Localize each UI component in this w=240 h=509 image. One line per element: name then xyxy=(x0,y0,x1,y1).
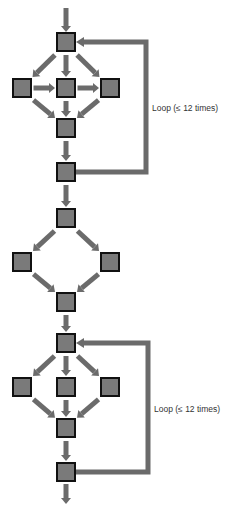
exit-arrow xyxy=(61,484,71,504)
edge-b4-c1 xyxy=(61,315,71,332)
edge-a3-a5 xyxy=(61,101,71,117)
edge-a4-a5 xyxy=(77,100,99,118)
process-node-c1 xyxy=(57,334,75,352)
process-node-c4 xyxy=(101,378,119,396)
loop-1-return-path xyxy=(75,37,146,172)
edge-c3-c5 xyxy=(61,400,71,417)
arrowhead-icon xyxy=(61,455,71,461)
edge-b1-b3 xyxy=(78,231,100,251)
process-node-b4 xyxy=(57,293,75,311)
arrowhead-icon xyxy=(61,201,71,207)
edge-c1-c2 xyxy=(33,356,55,376)
edge-a5-a6 xyxy=(61,141,71,161)
edge-c1-c4 xyxy=(78,356,100,376)
process-node-a1 xyxy=(57,33,75,51)
edge-a2-a3 xyxy=(34,83,56,93)
edge-c5-c6 xyxy=(61,441,71,461)
edge-b1-b2 xyxy=(33,231,55,251)
process-node-a3 xyxy=(57,79,75,97)
process-node-b2 xyxy=(13,253,31,271)
process-node-b1 xyxy=(57,209,75,227)
process-node-a6 xyxy=(57,163,75,181)
arrowhead-icon xyxy=(61,155,71,161)
entry-arrow xyxy=(61,8,71,32)
process-node-a2 xyxy=(13,79,31,97)
loop-2-return-path xyxy=(75,338,148,472)
arrowhead-icon xyxy=(61,26,71,32)
edge-a6-b1 xyxy=(61,185,71,207)
arrowhead-icon xyxy=(61,370,71,376)
edge-c2-c5 xyxy=(34,399,56,417)
arrowhead-icon xyxy=(61,326,71,332)
arrowhead-icon xyxy=(76,338,84,348)
process-node-a4 xyxy=(101,79,119,97)
process-node-c6 xyxy=(57,463,75,481)
arrowhead-icon xyxy=(61,498,71,504)
edge-c1-c3 xyxy=(61,356,71,376)
edge-a3-a4 xyxy=(78,83,100,93)
arrowhead-icon xyxy=(61,111,71,117)
arrowhead-icon xyxy=(93,83,99,93)
process-node-c3 xyxy=(57,378,75,396)
edge-a2-a5 xyxy=(34,100,56,118)
arrowhead-icon xyxy=(61,411,71,417)
edge-b3-b4 xyxy=(77,274,99,292)
arrowhead-icon xyxy=(61,71,71,77)
process-node-c5 xyxy=(57,419,75,437)
edge-a1-a2 xyxy=(33,55,55,77)
process-node-a5 xyxy=(57,119,75,137)
process-node-c2 xyxy=(13,378,31,396)
flowchart-diagram xyxy=(0,0,240,509)
loop-2-label: Loop (≤ 12 times) xyxy=(154,404,220,414)
edge-b2-b4 xyxy=(34,274,56,292)
edge-c4-c5 xyxy=(77,399,99,417)
arrowhead-icon xyxy=(49,83,55,93)
loop-1-label: Loop (≤ 12 times) xyxy=(152,103,218,113)
edge-a1-a3 xyxy=(61,55,71,77)
edge-a1-a4 xyxy=(77,55,99,77)
arrowhead-icon xyxy=(76,37,84,47)
process-node-b3 xyxy=(101,253,119,271)
